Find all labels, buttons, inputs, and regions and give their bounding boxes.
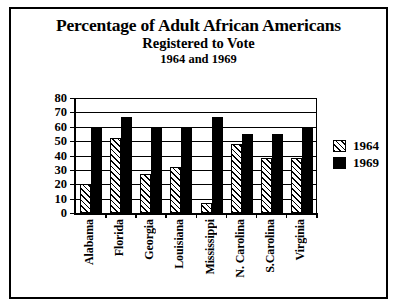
legend-item: 1964 <box>333 137 379 154</box>
y-axis-tick <box>70 213 76 214</box>
chart-legend: 19641969 <box>333 137 379 171</box>
bar-1969 <box>272 134 283 213</box>
bar-1964 <box>231 144 242 213</box>
bar-group <box>170 98 192 213</box>
y-axis-tick-label: 60 <box>55 121 68 134</box>
x-axis-tick <box>165 213 167 218</box>
bar-1964 <box>110 138 121 213</box>
bar-1969 <box>181 127 192 213</box>
x-axis-label-virginia: Virginia <box>293 219 308 260</box>
x-axis-tick <box>316 213 318 218</box>
x-axis-label-alabama: Alabama <box>82 219 97 265</box>
x-axis-tick <box>256 213 258 218</box>
x-axis-tick <box>226 213 228 218</box>
bar-1969 <box>302 127 313 213</box>
legend-item: 1969 <box>333 154 379 171</box>
bar-1964 <box>261 158 272 213</box>
bar-group <box>291 98 313 213</box>
x-axis-tick <box>135 213 137 218</box>
plot-area: 01020304050607080 <box>74 98 317 215</box>
x-axis-label-florida: Florida <box>112 219 127 256</box>
hatched-swatch <box>333 140 346 152</box>
bar-group <box>80 98 102 213</box>
legend-label: 1969 <box>353 155 379 171</box>
legend-label: 1964 <box>353 138 379 154</box>
x-axis-tick <box>105 213 107 218</box>
bar-1969 <box>242 134 253 213</box>
bar-1969 <box>151 127 162 213</box>
bar-group <box>261 98 283 213</box>
chart-subtitle-years: 1964 and 1969 <box>11 52 386 67</box>
bar-series-container <box>76 98 317 213</box>
bar-1964 <box>140 174 151 213</box>
bar-group <box>140 98 162 213</box>
chart-subtitle: Registered to Vote <box>11 35 386 52</box>
bar-1964 <box>201 203 212 213</box>
bar-group <box>231 98 253 213</box>
y-axis-tick-label: 10 <box>55 192 68 205</box>
bar-1964 <box>170 167 181 213</box>
chart-title: Percentage of Adult African Americans <box>11 15 386 35</box>
bar-1969 <box>91 127 102 213</box>
y-axis-tick-label: 70 <box>55 106 68 119</box>
x-axis-tick <box>286 213 288 218</box>
bar-1969 <box>121 117 132 213</box>
bar-1964 <box>80 184 91 213</box>
x-axis-tick <box>196 213 198 218</box>
bar-1964 <box>291 158 302 213</box>
x-axis-label-s-carolina: S.Carolina <box>263 219 278 273</box>
y-axis-tick-label: 40 <box>55 149 68 162</box>
y-axis-tick-label: 80 <box>55 92 68 105</box>
x-axis-label-mississippi: Mississippi <box>203 219 218 275</box>
chart-frame: Percentage of Adult African Americans Re… <box>9 7 388 299</box>
bar-group <box>110 98 132 213</box>
x-axis-label-louisiana: Louisiana <box>172 219 187 269</box>
y-axis-tick-label: 0 <box>61 207 67 220</box>
x-axis-label-n-carolina: N. Carolina <box>233 219 248 278</box>
y-axis-tick-label: 20 <box>55 178 68 191</box>
bar-group <box>201 98 223 213</box>
black-swatch <box>333 157 346 169</box>
bar-1969 <box>212 117 223 213</box>
y-axis-tick-label: 30 <box>55 164 68 177</box>
y-axis-tick-label: 50 <box>55 135 68 148</box>
chart-title-block: Percentage of Adult African Americans Re… <box>11 15 386 67</box>
x-axis-label-georgia: Georgia <box>142 219 157 260</box>
